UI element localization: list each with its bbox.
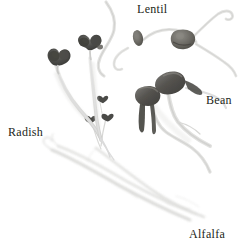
sprout-specimen-plate: Lentil Bean Radish Alfalfa — [0, 0, 243, 247]
label-radish: Radish — [8, 126, 43, 138]
label-lentil: Lentil — [137, 3, 167, 15]
sprout-photograph — [0, 0, 243, 247]
label-bean: Bean — [206, 94, 232, 106]
label-alfalfa: Alfalfa — [189, 228, 225, 240]
